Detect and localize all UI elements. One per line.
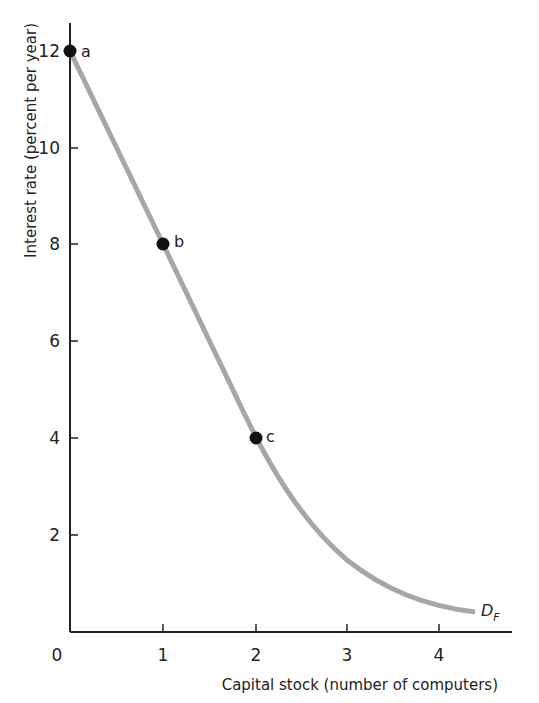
y-axis-title: Interest rate (percent per year) (22, 23, 40, 258)
x-tick-labels: 0 1 2 3 4 (52, 645, 445, 665)
x-axis-title: Capital stock (number of computers) (222, 676, 498, 694)
svg-text:2: 2 (49, 525, 60, 545)
svg-text:4: 4 (434, 645, 445, 665)
svg-text:b: b (174, 232, 184, 251)
x-ticks (163, 624, 439, 632)
chart: 2 4 6 8 10 12 0 1 2 3 4 Capital stock (n… (0, 0, 539, 703)
point-a: a (64, 42, 91, 61)
svg-text:a: a (81, 42, 91, 61)
curve-label: DF (481, 601, 500, 624)
svg-text:1: 1 (158, 645, 169, 665)
svg-text:2: 2 (251, 645, 262, 665)
y-tick-labels: 2 4 6 8 10 12 (38, 41, 60, 545)
svg-text:4: 4 (49, 428, 60, 448)
y-ticks (70, 148, 78, 535)
demand-curve-df (70, 51, 475, 612)
svg-text:3: 3 (342, 645, 353, 665)
svg-text:0: 0 (52, 645, 63, 665)
svg-text:6: 6 (49, 331, 60, 351)
svg-text:12: 12 (38, 41, 60, 61)
svg-text:10: 10 (38, 138, 60, 158)
svg-text:8: 8 (49, 234, 60, 254)
svg-text:c: c (266, 427, 275, 446)
